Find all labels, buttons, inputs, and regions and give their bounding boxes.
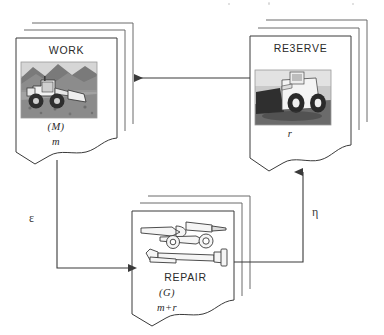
node-repair-variable: m+r	[135, 302, 199, 313]
flow-diagram: WORK (M) m RE3ERVE r REPAIR (G) m+r ε η	[0, 0, 384, 335]
node-reserve-title: RE3ERVE	[250, 42, 351, 54]
node-work-variable: m	[16, 136, 96, 147]
edge-label-eta: η	[312, 205, 318, 220]
node-reserve-variable: r	[250, 128, 330, 139]
node-work-title: WORK	[16, 44, 117, 56]
node-work-symbol: (M)	[16, 121, 96, 132]
wheel-loader-photo	[21, 62, 97, 118]
edge-work-to-repair	[57, 160, 128, 268]
node-repair-title: REPAIR	[135, 271, 236, 283]
wheel-loader-front-photo	[255, 70, 331, 125]
edge-repair-to-reserve	[234, 172, 303, 262]
node-repair-symbol: (G)	[135, 287, 199, 298]
edge-label-epsilon: ε	[29, 211, 34, 226]
